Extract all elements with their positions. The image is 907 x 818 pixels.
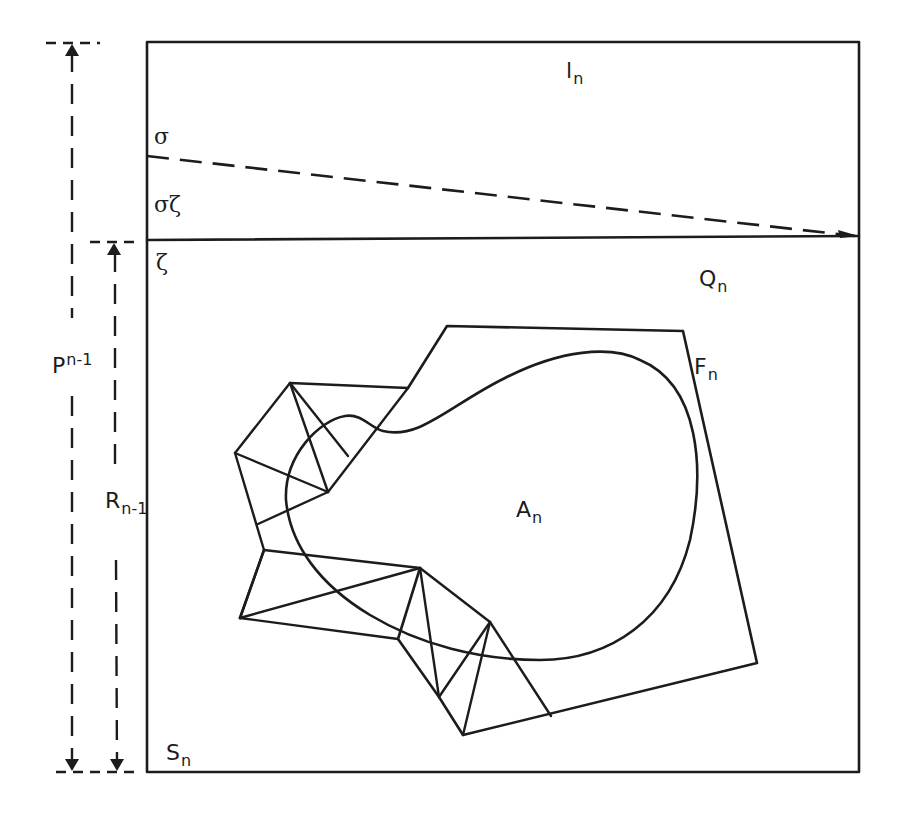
label-r-sub: n-1: [121, 499, 147, 518]
arrow-up-r: [107, 243, 121, 255]
label-s-n-sub: n: [181, 751, 191, 770]
label-p-sup: n-1: [66, 350, 92, 369]
label-p-n-minus-1: Pn-1: [52, 352, 92, 377]
cluster-lower-diag-2: [420, 568, 439, 697]
cluster-lower-edge-3: [420, 568, 490, 622]
dim-line-r-lower: [116, 560, 117, 762]
label-sigma: σ: [154, 126, 169, 148]
label-sigma-zeta: σζ: [154, 194, 181, 216]
diagram-canvas: [0, 0, 907, 818]
label-sigma-text: σ: [154, 124, 169, 149]
cluster-lower-diag-3: [439, 622, 490, 697]
divider-line-zeta: [147, 236, 859, 240]
cluster-upper-edge: [328, 388, 408, 492]
label-zeta: ζ: [156, 252, 168, 274]
dashed-slope-line-sigma: [147, 156, 855, 236]
label-f-n-sub: n: [708, 365, 718, 384]
arrow-up-p: [65, 44, 79, 56]
label-sigma-zeta-text: σζ: [154, 192, 181, 217]
label-s-n: Sn: [166, 742, 191, 769]
label-q-n-base: Q: [699, 266, 716, 291]
label-a-n: An: [516, 499, 542, 526]
curve-a-n: [286, 352, 697, 660]
label-s-n-base: S: [166, 740, 180, 765]
cluster-lower-diag-1: [240, 568, 420, 618]
label-q-n-sub: n: [717, 277, 727, 296]
cluster-upper-outline: [235, 383, 408, 550]
arrow-down-r: [110, 759, 124, 771]
cluster-upper-diag-3: [235, 453, 328, 492]
label-f-n: Fn: [694, 356, 718, 383]
cluster-upper-diag-2: [290, 383, 348, 456]
label-r-n-minus-1: Rn-1: [105, 490, 147, 517]
label-l-n: ln: [566, 60, 583, 87]
label-a-n-base: A: [516, 497, 531, 522]
label-f-n-base: F: [694, 354, 707, 379]
cluster-lower-diag-5: [490, 622, 551, 716]
outer-square-s-n: [147, 42, 859, 772]
cluster-lower-diag-4: [463, 622, 490, 735]
arrow-down-p: [65, 759, 79, 771]
cluster-lower-edge-1: [240, 550, 264, 618]
label-zeta-text: ζ: [156, 250, 168, 275]
label-p-base: P: [52, 353, 65, 378]
label-a-n-sub: n: [532, 508, 542, 527]
label-q-n: Qn: [699, 268, 727, 295]
label-l-n-sub: n: [573, 69, 583, 88]
label-r-base: R: [105, 488, 120, 513]
cluster-lower-edge-2: [240, 618, 398, 639]
label-l-n-base: l: [566, 58, 572, 83]
polygon-f-n-main: [240, 326, 757, 735]
cluster-upper-diag-4: [258, 492, 328, 524]
